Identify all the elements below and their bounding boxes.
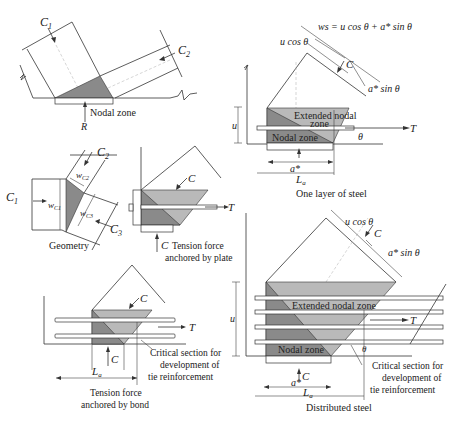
dist-theta-label: θ (362, 344, 367, 354)
bond-c-bottom-label: C (111, 353, 119, 365)
panel-anchored-by-plate: C T C Tension force anchored by plate (129, 146, 235, 263)
dist-c-label: C (374, 227, 382, 239)
one-a-sin-label: a* sin θ (368, 83, 400, 94)
one-nodal-label: Nodal zone (272, 132, 318, 143)
one-la-label: La (295, 173, 306, 187)
one-t-label: T (410, 122, 417, 134)
dist-a-star-label: a* (291, 377, 301, 388)
dist-c-bottom-label: C (302, 370, 310, 382)
panel-nodal-zone-cct: C1 C2 Nodal zone R (20, 15, 197, 132)
nodal-zone-label: Nodal zone (90, 107, 136, 118)
dist-u-cos-label: u cos θ (345, 216, 373, 227)
dist-nodal-label: Nodal zone (278, 344, 324, 355)
bond-c-label: C (140, 292, 148, 304)
one-extended-2: zone (310, 118, 329, 129)
plate-c-label: C (188, 172, 196, 184)
dist-extended-label: Extended nodal zone (292, 300, 376, 311)
panel-distributed-steel: u cos θ C a* sin θ Extended nodal zone T… (230, 210, 446, 413)
panel-anchored-by-bond: C T C La Critical section for developmen… (44, 265, 222, 410)
plate-c-bottom-label: C (161, 239, 169, 251)
strut-and-tie-nodal-zone-figure: C1 C2 Nodal zone R C1 C2 C3 (0, 0, 458, 423)
one-c-label: C (346, 58, 354, 70)
one-u-label: u (232, 120, 237, 131)
one-layer-caption: One layer of steel (296, 188, 367, 199)
dist-critical-1: Critical section for (372, 361, 444, 371)
geom-c1-label: C1 (6, 190, 18, 206)
geometry-caption: Geometry (49, 240, 89, 251)
wc2-label: wC2 (76, 170, 89, 181)
bond-la-label: La (91, 365, 102, 379)
panel-one-layer-of-steel: ws = u cos θ + a* sin θ u cos θ a* sin θ… (232, 21, 417, 199)
dist-a-sin-label: a* sin θ (388, 247, 420, 258)
plate-caption-2: anchored by plate (165, 253, 233, 263)
dist-la-label: La (302, 386, 313, 400)
geom-c2-label: C2 (97, 145, 109, 161)
ws-formula: ws = u cos θ + a* sin θ (318, 21, 412, 32)
distributed-caption: Distributed steel (306, 402, 372, 413)
dist-u-label: u (230, 313, 235, 324)
plate-t-label: T (228, 201, 235, 213)
geom-c3-label: C3 (110, 222, 122, 238)
dist-t-label: T (410, 314, 417, 326)
one-theta-label: θ (358, 131, 363, 142)
c2-label: C2 (178, 43, 190, 59)
bond-caption-2: anchored by bond (81, 400, 149, 410)
dist-critical-2: development of (382, 373, 442, 383)
bond-t-label: T (189, 321, 196, 333)
dist-critical-3: tie reinforcement (370, 385, 436, 395)
bond-critical-1: Critical section for (150, 348, 222, 358)
reaction-label: R (80, 121, 87, 132)
bond-critical-3: tie reinforcement (148, 372, 214, 382)
plate-caption-1: Tension force (172, 241, 224, 251)
panel-geometry: C1 C2 C3 wC1 wC2 wC3 Geometry (6, 145, 122, 251)
c1-label: C1 (40, 15, 52, 31)
one-u-cos-label: u cos θ (280, 36, 308, 47)
bond-critical-2: development of (160, 360, 220, 370)
wc1-label: wC1 (48, 200, 61, 211)
bond-caption-1: Tension force (90, 388, 142, 398)
